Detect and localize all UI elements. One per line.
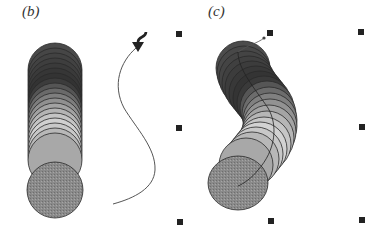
path-node[interactable] bbox=[262, 36, 265, 39]
end-cap-circle bbox=[27, 162, 83, 218]
selection-handle-middle-left[interactable] bbox=[176, 125, 182, 131]
diagram-canvas bbox=[0, 0, 380, 236]
bent-circle-stack bbox=[208, 41, 297, 210]
selection-handle-top-middle[interactable] bbox=[267, 30, 273, 36]
straight-circle-stack bbox=[27, 43, 83, 218]
arrow-icon bbox=[132, 32, 146, 52]
guide-path-curve bbox=[113, 48, 155, 204]
selection-handle-bottom-right[interactable] bbox=[359, 217, 365, 223]
selection-handle-top-left[interactable] bbox=[176, 31, 182, 37]
selection-handle-bottom-left[interactable] bbox=[177, 219, 183, 225]
selection-handle-middle-right[interactable] bbox=[359, 124, 365, 130]
selection-handle-bottom-middle[interactable] bbox=[268, 218, 274, 224]
end-cap-circle-bent bbox=[208, 156, 268, 210]
selection-handle-top-right[interactable] bbox=[358, 29, 364, 35]
